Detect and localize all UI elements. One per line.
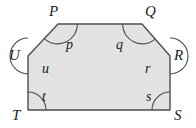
angle-label-s: s: [146, 90, 151, 104]
angle-label-u: u: [42, 62, 49, 76]
vertex-label-u: U: [9, 48, 20, 63]
hexagon-angle-diagram: PQRSTU pqrstu: [0, 0, 196, 128]
angle-label-r: r: [145, 62, 150, 76]
angle-label-t: t: [42, 90, 46, 104]
vertex-label-s: S: [174, 108, 182, 123]
vertex-label-q: Q: [145, 4, 156, 19]
vertex-label-p: P: [49, 4, 58, 19]
vertex-label-r: R: [174, 48, 183, 63]
angle-label-p: p: [66, 38, 73, 52]
vertex-label-t: T: [12, 108, 20, 123]
angle-label-q: q: [116, 38, 123, 52]
hexagon-svg: [0, 0, 196, 128]
